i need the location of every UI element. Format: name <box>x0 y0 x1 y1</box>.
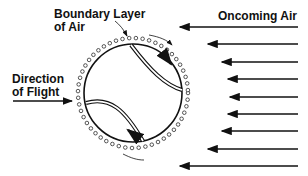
direction-of-flight-label: Direction of Flight <box>12 73 64 99</box>
boundary-label-line2: of Air <box>54 21 145 34</box>
magnus-effect-diagram: Boundary Layer of Air Oncoming Air Direc… <box>0 0 308 176</box>
oncoming-air-arrows <box>180 27 298 166</box>
boundary-layer-label: Boundary Layer of Air <box>54 8 145 34</box>
direction-label-line2: of Flight <box>12 86 64 99</box>
oncoming-air-label: Oncoming Air <box>218 10 297 23</box>
